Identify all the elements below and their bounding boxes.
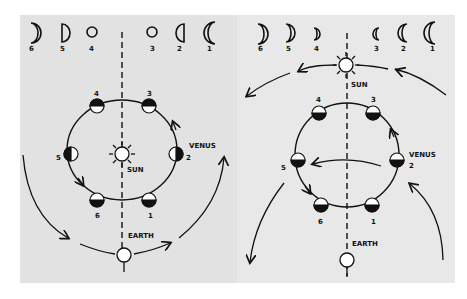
venus-pos-2-icon [390, 153, 404, 167]
orbit-label: 2 [186, 154, 191, 162]
orbit-label: 6 [95, 212, 100, 220]
phase-1-crescent-icon [204, 22, 215, 44]
right-venus-label: VENUS [409, 151, 436, 159]
orbit-label: 3 [147, 90, 152, 98]
phase-label: 2 [177, 45, 182, 53]
venus-phases-diagram: 6 5 4 3 2 1 SUN 4 3 5 2 6 1 VENUS EA [0, 0, 467, 299]
left-earth-label: EARTH [128, 232, 154, 240]
left-earth-icon [117, 248, 131, 262]
phase-6-crescent-icon [31, 23, 41, 43]
phase-label: 1 [207, 45, 212, 53]
phase-label: 1 [430, 45, 435, 53]
right-earth-label: EARTH [352, 240, 378, 248]
orbit-label: 4 [316, 96, 321, 104]
venus-pos-1-icon [365, 198, 379, 212]
orbit-label: 1 [371, 218, 376, 226]
venus-pos-6-icon [314, 198, 328, 212]
phase-1-crescent-icon [424, 22, 435, 44]
right-sun-icon [333, 52, 359, 78]
orbit-label: 2 [409, 162, 414, 170]
phase-label: 4 [314, 45, 319, 53]
phase-label: 4 [89, 45, 94, 53]
right-sun-label: SUN [351, 81, 368, 89]
venus-pos-2-icon [169, 147, 183, 161]
orbit-label: 3 [371, 96, 376, 104]
phase-3-full-icon [147, 27, 157, 37]
venus-pos-6-icon [90, 193, 104, 207]
venus-pos-5-icon [291, 153, 305, 167]
phase-5-half-icon [62, 24, 70, 42]
phase-2-half-icon [176, 24, 184, 42]
orbit-label: 4 [94, 90, 99, 98]
phase-2-crescent-icon [398, 24, 407, 42]
orbit-label: 5 [56, 154, 61, 162]
venus-pos-5-icon [64, 147, 78, 161]
orbit-label: 1 [148, 212, 153, 220]
phase-label: 5 [60, 45, 65, 53]
phase-4-full-icon [87, 27, 97, 37]
phase-label: 3 [150, 45, 155, 53]
left-phase-labels: 6 5 4 3 2 1 [29, 45, 212, 53]
venus-pos-4-icon [312, 106, 326, 120]
phase-label: 2 [401, 45, 406, 53]
venus-pos-3-icon [142, 99, 156, 113]
phase-4-crescent-icon [314, 28, 320, 40]
right-earth-icon [340, 253, 354, 267]
venus-pos-4-icon [90, 99, 104, 113]
orbit-label: 6 [318, 218, 323, 226]
left-venus-label: VENUS [189, 142, 216, 150]
left-sun-icon [109, 141, 135, 167]
phase-label: 5 [286, 45, 291, 53]
orbit-label: 5 [281, 164, 286, 172]
left-sun-label: SUN [127, 166, 144, 174]
phase-label: 6 [29, 45, 34, 53]
phase-6-crescent-icon [258, 24, 268, 44]
phase-label: 3 [374, 45, 379, 53]
phase-3-crescent-icon [373, 28, 379, 40]
phase-5-crescent-icon [286, 24, 295, 42]
left-phase-row [31, 22, 215, 44]
venus-pos-3-icon [366, 106, 380, 120]
phase-label: 6 [258, 45, 263, 53]
venus-pos-1-icon [142, 193, 156, 207]
